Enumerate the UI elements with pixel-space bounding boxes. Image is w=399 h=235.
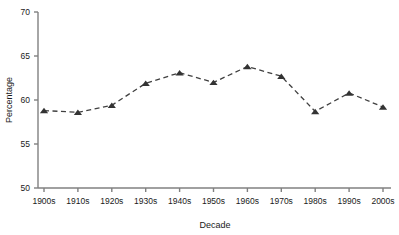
y-axis-tick-label: 65: [21, 51, 31, 61]
x-axis-tick-label: 1920s: [100, 196, 123, 206]
y-axis-tick-label: 50: [21, 183, 31, 193]
x-axis-tick-label: 1970s: [270, 196, 293, 206]
x-axis-tick-label: 1900s: [32, 196, 55, 206]
chart-container: 5055606570 1900s1910s1920s1930s1940s1950…: [0, 0, 399, 235]
x-axis-title: Decade: [199, 220, 230, 230]
x-axis-tick-label: 1980s: [304, 196, 327, 206]
y-axis-title: Percentage: [4, 77, 14, 123]
x-axis-tick-label: 1930s: [134, 196, 157, 206]
x-axis-tick-label: 1960s: [236, 196, 259, 206]
y-axis-tick-label: 70: [21, 7, 31, 17]
x-axis-tick-label: 1990s: [338, 196, 361, 206]
y-axis-tick-label: 60: [21, 95, 31, 105]
x-axis-tick-label: 2000s: [371, 196, 394, 206]
x-axis-tick-label: 1950s: [202, 196, 225, 206]
line-chart-figure: 5055606570 1900s1910s1920s1930s1940s1950…: [0, 0, 399, 235]
y-axis-tick-label: 55: [21, 139, 31, 149]
x-axis-tick-label: 1940s: [168, 196, 191, 206]
x-axis-tick-labels: 1900s1910s1920s1930s1940s1950s1960s1970s…: [32, 196, 394, 206]
x-axis-tick-label: 1910s: [66, 196, 89, 206]
